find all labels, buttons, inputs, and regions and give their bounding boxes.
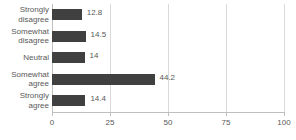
category-label-line: Somewhat [0, 27, 49, 37]
bar-strongly-agree[interactable] [52, 95, 85, 106]
bar-strongly-disagree[interactable] [52, 9, 82, 20]
x-tick-25 [110, 112, 111, 116]
bar-value-label: 44.2 [160, 72, 176, 83]
bar-somewhat-agree[interactable] [52, 74, 155, 85]
x-tick-50 [168, 112, 169, 116]
x-axis-labels: 0 25 50 75 100 [0, 118, 296, 132]
bar-row: 14.5 [52, 26, 284, 48]
x-tick-0 [52, 112, 53, 116]
category-axis-labels: Strongly disagree Somewhat disagree Neut… [0, 4, 49, 112]
x-axis-label-50: 50 [164, 118, 173, 128]
x-axis-label-75: 75 [222, 118, 231, 128]
bar-row: 14.4 [52, 90, 284, 112]
gridline-100 [284, 4, 285, 112]
category-label-line: disagree [0, 36, 49, 46]
category-label-line: Neutral [0, 53, 49, 63]
category-label-strongly-disagree: Strongly disagree [0, 5, 49, 24]
bar-row: 44.2 [52, 69, 284, 91]
category-label-somewhat-agree: Somewhat agree [0, 70, 49, 89]
x-axis-label-0: 0 [50, 118, 54, 128]
bar-row: 12.8 [52, 4, 284, 26]
category-label-line: Strongly [0, 91, 49, 101]
bar-neutral[interactable] [52, 52, 85, 63]
bar-value-label: 12.8 [87, 7, 103, 18]
category-label-line: Somewhat [0, 70, 49, 80]
category-label-line: agree [0, 79, 49, 89]
bar-value-label: 14.4 [90, 93, 106, 104]
x-tick-100 [284, 112, 285, 116]
bar-value-label: 14 [90, 50, 99, 61]
bar-row: 14 [52, 47, 284, 69]
category-label-neutral: Neutral [0, 53, 49, 63]
x-axis-label-100: 100 [277, 118, 290, 128]
x-tick-75 [226, 112, 227, 116]
category-label-strongly-agree: Strongly agree [0, 91, 49, 110]
horizontal-bar-chart: Strongly disagree Somewhat disagree Neut… [0, 0, 296, 140]
x-axis-label-25: 25 [106, 118, 115, 128]
category-label-line: agree [0, 101, 49, 111]
category-label-somewhat-disagree: Somewhat disagree [0, 27, 49, 46]
category-label-line: Strongly [0, 5, 49, 15]
category-label-line: disagree [0, 15, 49, 25]
bar-value-label: 14.5 [91, 29, 107, 40]
plot-area: 12.8 14.5 14 44.2 14.4 [52, 4, 284, 112]
bar-somewhat-disagree[interactable] [52, 31, 86, 42]
